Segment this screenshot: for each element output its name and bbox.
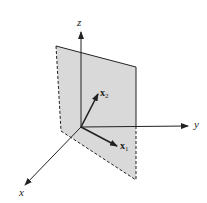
y-axis-label: y [194, 119, 199, 130]
plane [56, 46, 136, 180]
vector-x1-label: x1 [120, 141, 129, 153]
plane-vectors-diagram: z y x x2 x1 [0, 0, 207, 203]
z-axis-label: z [77, 17, 81, 28]
diagram-svg [0, 0, 207, 203]
x-axis [25, 127, 81, 185]
vector-x1-label-sub: 1 [125, 145, 129, 153]
x-axis-label: x [19, 187, 24, 198]
vector-x2-label: x2 [100, 88, 109, 100]
vector-x2-label-sub: 2 [105, 92, 109, 100]
